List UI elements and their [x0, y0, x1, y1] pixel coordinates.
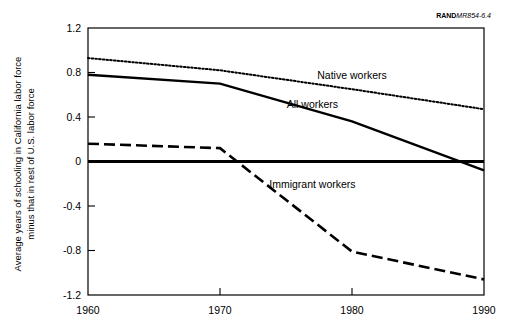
x-axis-tick-label: 1990: [472, 304, 496, 316]
series-label-all-workers: All workers: [287, 98, 338, 110]
series-label-immigrant-workers: Immigrant workers: [269, 178, 355, 190]
y-axis-tick-label: -0.4: [63, 200, 81, 212]
y-axis-tick-label: 0.8: [66, 66, 81, 78]
x-axis-tick-label: 1960: [76, 304, 100, 316]
x-axis-tick-label: 1980: [340, 304, 364, 316]
x-axis-tick-label: 1970: [208, 304, 232, 316]
y-axis-tick-label: 1.2: [66, 22, 81, 34]
y-axis-tick-label: 0: [75, 155, 81, 167]
chart-figure: RANDMR854-6.4 Average years of schooling…: [0, 0, 511, 333]
y-axis-tick-label: -0.8: [63, 244, 81, 256]
y-axis-tick-label: -1.2: [63, 289, 81, 301]
line-chart-plot: 1.20.80.40-0.4-0.8-1.21960197019801990Na…: [0, 0, 511, 333]
series-line-all-workers: [88, 75, 484, 171]
series-line-immigrant-workers: [88, 144, 484, 280]
y-axis-tick-label: 0.4: [66, 111, 81, 123]
series-label-native-workers: Native workers: [317, 69, 386, 81]
